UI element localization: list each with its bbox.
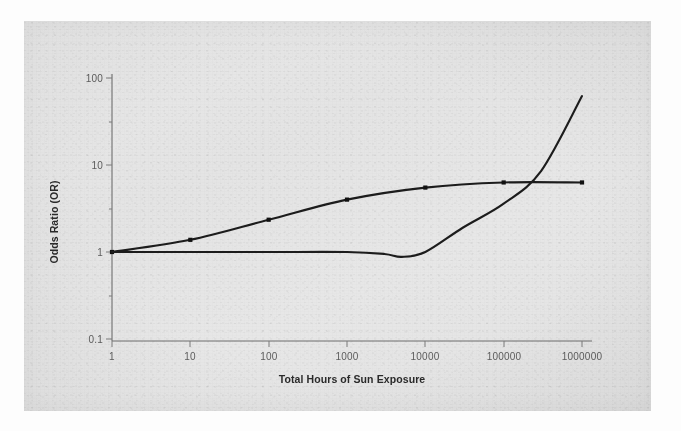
x-tick-label-100000: 100000 (487, 351, 522, 362)
series-threshold-curve (112, 96, 582, 257)
x-tick-label-10000: 10000 (411, 351, 440, 362)
y-tick-label-100: 100 (86, 73, 104, 84)
x-tick-label-100: 100 (260, 351, 278, 362)
series-saturating-curve-markers (110, 180, 584, 254)
x-tick-label-1000: 1000 (335, 351, 358, 362)
log-log-chart: 100 10 1 0.1 1 10 100 1000 10000 100000 … (0, 0, 681, 431)
data-point-marker (423, 185, 427, 189)
data-point-marker (267, 218, 271, 222)
series-saturating-curve (112, 182, 582, 252)
data-point-marker (580, 180, 584, 184)
data-point-marker (345, 198, 349, 202)
y-tick-label-1: 1 (97, 247, 103, 258)
y-tick-label-0.1: 0.1 (88, 334, 103, 345)
data-point-marker (188, 238, 192, 242)
figure-page: 100 10 1 0.1 1 10 100 1000 10000 100000 … (0, 0, 681, 431)
y-tick-label-10: 10 (91, 160, 103, 171)
x-tick-label-1000000: 1000000 (562, 351, 603, 362)
x-axis-ticks (112, 341, 582, 347)
y-axis-title: Odds Ratio (OR) (48, 180, 60, 263)
y-axis-ticks (106, 78, 112, 339)
x-axis-title: Total Hours of Sun Exposure (279, 373, 426, 385)
x-tick-label-1: 1 (109, 351, 115, 362)
data-point-marker (502, 180, 506, 184)
x-tick-label-10: 10 (184, 351, 196, 362)
